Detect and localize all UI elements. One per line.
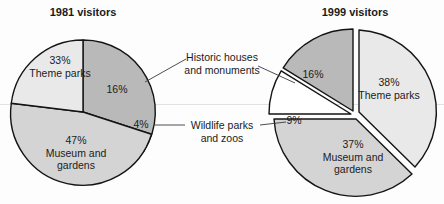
callout-wildlife-parks: Wildlife parks and zoos — [155, 119, 286, 144]
right-wildlife-pct: 9% — [286, 114, 301, 126]
left-wildlife-pct: 4% — [133, 118, 148, 130]
callout-wildlife-line1: Wildlife parks — [191, 119, 253, 131]
callout-historic-line1: Historic houses — [186, 51, 258, 63]
callout-wildlife-line2: and zoos — [201, 132, 244, 144]
right-museum-pct: 37% — [342, 138, 363, 150]
right-theme-parks-pct: 38% — [378, 76, 399, 88]
right-museum-name-line2: gardens — [334, 163, 372, 175]
right-theme-parks-name: Theme parks — [358, 89, 419, 101]
pie-chart-figure: 1981 visitors 33% Theme parks 47% Museum… — [0, 0, 444, 204]
left-theme-parks-name: Theme parks — [29, 67, 90, 79]
right-chart-title: 1999 visitors — [322, 6, 389, 18]
leader-historic-left — [145, 59, 186, 82]
right-museum-name-line1: Museum and — [323, 151, 384, 163]
left-museum-name-line2: gardens — [57, 159, 95, 171]
right-historic-pct: 16% — [302, 68, 323, 80]
left-pie-group: 1981 visitors 33% Theme parks 47% Museum… — [11, 6, 156, 185]
left-theme-parks-pct: 33% — [49, 54, 70, 66]
left-chart-title: 1981 visitors — [50, 6, 117, 18]
left-museum-pct: 47% — [65, 134, 86, 146]
pie-charts-canvas: 1981 visitors 33% Theme parks 47% Museum… — [0, 0, 444, 204]
callout-historic-houses: Historic houses and monuments — [145, 51, 295, 83]
right-pie-group: 1999 visitors 38% Theme parks 37% Museum… — [269, 6, 436, 196]
callout-historic-line2: and monuments — [184, 64, 259, 76]
left-historic-pct: 16% — [106, 83, 127, 95]
left-museum-name-line1: Museum and — [46, 147, 107, 159]
